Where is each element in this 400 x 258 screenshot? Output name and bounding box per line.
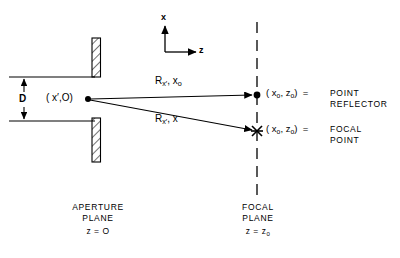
point-reflector-name-line1: POINT xyxy=(330,89,359,99)
point-reflector-name-line2: REFLECTOR xyxy=(330,100,388,110)
lower-ray-label-rest: , x xyxy=(167,113,178,124)
upper-ray-label: Rx′, xo xyxy=(155,75,182,88)
coordinate-axes xyxy=(165,26,196,52)
aperture-caption-line1: APERTURE xyxy=(51,203,145,213)
figure-canvas: x z D ( x′,O) Rx′, xo Rx′, x ( xo, zo) =… xyxy=(0,0,400,258)
ray-to-point-reflector xyxy=(90,95,252,99)
focal-plane-caption-sub: 0 xyxy=(266,230,270,237)
upper-ray-label-rest: , x xyxy=(167,75,178,86)
aperture-caption-line3: z = O xyxy=(51,227,145,237)
focal-point-name-line1: FOCAL xyxy=(330,125,362,135)
source-point-label: ( x′,O) xyxy=(46,92,73,104)
upper-ray-label-sub-o: o xyxy=(178,79,182,88)
lower-ray-label: Rx′, x xyxy=(155,113,178,126)
focal-plane-caption-line3: z = z0 xyxy=(216,227,300,237)
point-reflector-coord-mid: , z xyxy=(280,87,290,98)
x-axis-label: x xyxy=(161,12,166,22)
point-reflector-coord-close: ) = xyxy=(294,87,308,98)
point-reflector-coord-open: ( x xyxy=(266,87,277,98)
source-point-marker xyxy=(85,96,91,102)
aperture-caption-line2: PLANE xyxy=(51,214,145,224)
aperture-bar-upper xyxy=(92,38,101,77)
z-axis-label: z xyxy=(199,45,204,55)
focal-plane-caption-line1: FOCAL xyxy=(216,203,300,213)
aperture-bar-lower xyxy=(92,118,101,162)
point-reflector-marker xyxy=(254,92,261,99)
point-reflector-coordinate: ( xo, zo) = xyxy=(266,88,308,100)
focal-point-name-line2: POINT xyxy=(330,136,359,146)
focal-plane-caption-line2: PLANE xyxy=(216,214,300,224)
focal-point-coord-open: ( x xyxy=(266,123,277,134)
focal-point-coord-mid: , z xyxy=(280,123,290,134)
focal-point-coordinate: ( xo, zo) = xyxy=(266,124,308,136)
focal-point-coord-close: ) = xyxy=(294,123,308,134)
focal-plane-caption-z: z = z xyxy=(246,226,267,236)
aperture-dimension-label: D xyxy=(19,93,26,105)
